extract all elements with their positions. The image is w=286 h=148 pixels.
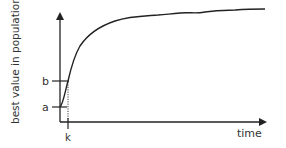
chart-canvas: best value in population time a b k (0, 0, 286, 148)
tick-label-b: b (42, 75, 49, 88)
tick-label-a: a (42, 101, 49, 114)
best-value-curve (60, 9, 265, 107)
y-axis-label: best value in population (9, 0, 21, 124)
x-axis-label: time (237, 127, 262, 140)
tick-label-k: k (65, 132, 71, 143)
